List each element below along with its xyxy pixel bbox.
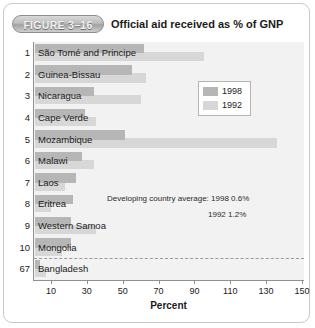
row-rank-label: 9 [25, 215, 30, 237]
chart-row: 3Nicaragua [34, 85, 304, 107]
row-rank-label: 8 [25, 193, 30, 215]
x-axis-tick [123, 280, 124, 284]
chart-row: 5Mozambique [34, 129, 304, 151]
x-axis-line [33, 280, 304, 281]
country-label: Guinea-Bissau [38, 64, 100, 86]
country-label: Nicaragua [38, 85, 81, 107]
x-axis-tick-label: 90 [179, 286, 209, 296]
country-label: Eritrea [38, 193, 66, 215]
legend-label: 1992 [222, 99, 242, 112]
country-label: Mozambique [38, 129, 92, 151]
chart-plot-area: 1São Tomé and Principe2Guinea-Bissau3Nic… [33, 42, 304, 280]
row-rank-label: 6 [25, 150, 30, 172]
row-rank-label: 1 [25, 42, 30, 64]
chart-row: 9Western Samoa [34, 215, 304, 237]
x-axis-tick [87, 280, 88, 284]
x-axis-tick-label: 50 [108, 286, 138, 296]
country-label: Laos [38, 172, 59, 194]
row-rank-label: 67 [19, 258, 30, 280]
x-axis-tick [266, 280, 267, 284]
x-axis-tick [51, 280, 52, 284]
chart-row: 4Cape Verde [34, 107, 304, 129]
country-label: Western Samoa [38, 215, 106, 237]
annotation-line-2: 1992 1.2% [208, 209, 246, 220]
country-label: Cape Verde [38, 107, 88, 129]
row-rank-label: 10 [19, 237, 30, 259]
x-axis-title: Percent [33, 300, 304, 311]
country-label: Bangladesh [38, 258, 88, 280]
legend-label: 1998 [222, 85, 242, 98]
chart-row: 7Laos [34, 172, 304, 194]
chart-row: 6Malawi [34, 150, 304, 172]
rank-gap-separator [34, 258, 304, 259]
row-rank-label: 4 [25, 107, 30, 129]
figure-card: FIGURE 3–16 Official aid received as % o… [3, 3, 310, 323]
chart-legend: 19981992 [198, 81, 251, 116]
x-axis-tick-label: 70 [144, 286, 174, 296]
x-axis-tick-label: 130 [251, 286, 281, 296]
x-axis-tick [302, 280, 303, 284]
x-axis-tick [230, 280, 231, 284]
x-axis-tick-label: 30 [72, 286, 102, 296]
annotation-line-1: Developing country average: 1998 0.6% [107, 193, 249, 204]
country-label: Malawi [38, 150, 68, 172]
x-axis-tick-label: 150 [287, 286, 315, 296]
row-rank-label: 3 [25, 85, 30, 107]
x-axis-tick [159, 280, 160, 284]
chart-row: 10Mongolia [34, 237, 304, 259]
legend-swatch [203, 101, 218, 110]
country-label: São Tomé and Principe [38, 42, 136, 64]
figure-number-badge: FIGURE 3–16 [12, 15, 104, 33]
chart-plot-wrapper: 1São Tomé and Principe2Guinea-Bissau3Nic… [12, 42, 304, 314]
row-rank-label: 5 [25, 129, 30, 151]
legend-swatch [203, 87, 218, 96]
figure-title: Official aid received as % of GNP [111, 16, 283, 32]
figure-number-label: FIGURE 3–16 [13, 16, 103, 34]
chart-row: 2Guinea-Bissau [34, 64, 304, 86]
row-rank-label: 2 [25, 64, 30, 86]
row-rank-label: 7 [25, 172, 30, 194]
figure-header: FIGURE 3–16 Official aid received as % o… [4, 15, 311, 37]
x-axis-tick-label: 10 [36, 286, 66, 296]
country-label: Mongolia [38, 237, 77, 259]
chart-row: 67Bangladesh [34, 258, 304, 280]
x-axis-tick [194, 280, 195, 284]
x-axis-tick-label: 110 [215, 286, 245, 296]
chart-row: 1São Tomé and Principe [34, 42, 304, 64]
